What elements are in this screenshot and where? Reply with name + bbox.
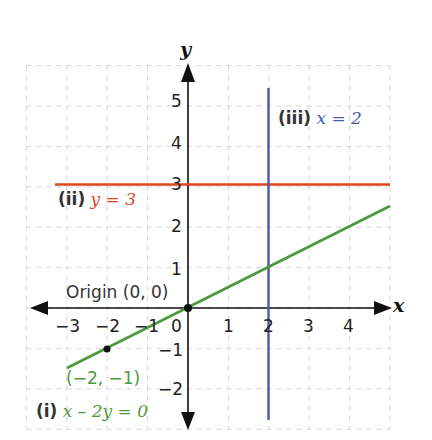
arrow-up-icon [181, 63, 195, 82]
x-tick: 4 [343, 318, 354, 335]
y-tick: 1 [171, 261, 182, 278]
arrow-right-icon [374, 301, 392, 315]
coordinate-plane: y x −3 −2 −1 0 1 2 3 4 5 4 3 2 1 −1 −2 O… [0, 0, 432, 440]
origin-point [184, 304, 192, 312]
y-axis [181, 63, 195, 430]
x-tick: 3 [303, 318, 314, 335]
y-tick: 3 [171, 176, 182, 193]
line-ii-tag: (ii) [58, 189, 85, 209]
graph-svg [0, 0, 432, 440]
x-tick: −3 [55, 318, 80, 335]
point-minus2-minus1 [104, 346, 111, 353]
x-tick: 2 [263, 318, 274, 335]
line-ii-eq-text: y = 3 [91, 189, 136, 209]
line-i-equation: x – 2y = 0 [63, 401, 148, 421]
point-label: (−2, −1) [66, 370, 140, 387]
line-iii-tag: (iii) [278, 108, 311, 128]
arrow-left-icon [30, 301, 48, 315]
y-axis-label: y [180, 40, 191, 59]
line-iii-equation: x = 2 [316, 108, 361, 128]
y-tick: −2 [158, 381, 183, 398]
origin-label: Origin (0, 0) [66, 284, 169, 301]
x-tick: −1 [134, 318, 159, 335]
x-axis-label: x [393, 296, 404, 315]
line-iii-label: (iii) x = 2 [278, 110, 362, 127]
x-tick: −2 [95, 318, 120, 335]
x-tick: 0 [171, 318, 182, 335]
line-i-tag: (i) [36, 401, 57, 421]
y-tick: 2 [171, 218, 182, 235]
y-tick: 4 [171, 135, 182, 152]
y-tick: −1 [158, 342, 183, 359]
y-tick: 5 [171, 93, 182, 110]
x-axis [30, 301, 392, 315]
line-i-label: (i) x – 2y = 0 [36, 403, 148, 420]
line-ii-label: (ii) y = 3 [58, 191, 136, 208]
arrow-down-icon [181, 412, 195, 430]
x-tick: 1 [223, 318, 234, 335]
line-ii-equation: y = 3 [91, 189, 136, 209]
